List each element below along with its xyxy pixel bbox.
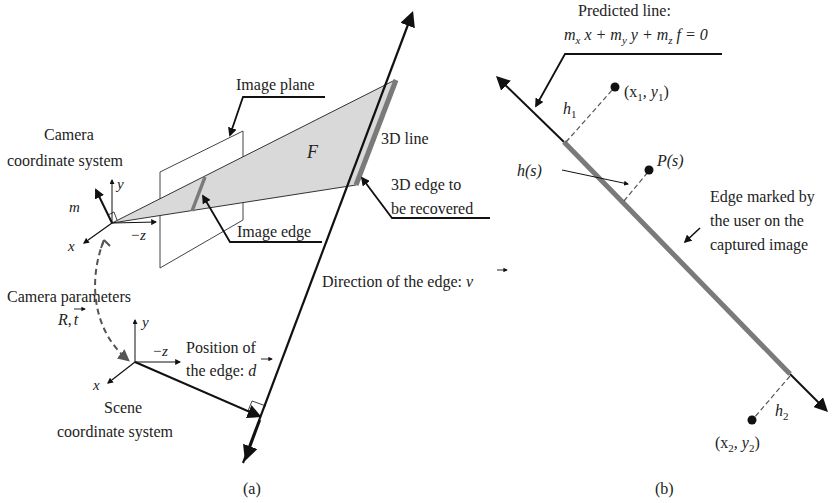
plane-F [112,80,395,223]
caption-b: (b) [655,480,674,498]
caption-a: (a) [243,480,261,498]
label-image-plane: Image plane [236,76,315,94]
label-x-cam: x [67,238,75,254]
line-3d-lower-arrow [246,420,260,458]
label-scene-cs: coordinate system [57,423,174,441]
point-x1y1 [611,83,620,92]
panel-a: Image plane Camera coordinate system m y… [7,14,507,498]
point-x2y2 [748,416,757,425]
label-F: F [306,142,319,162]
label-m: m [69,199,80,215]
label-h1: h1 [563,100,577,120]
label-scene: Scene [104,399,142,416]
label-equation: mx x + my y + mz f = 0 [564,26,708,46]
label-y-cam: y [115,176,124,192]
label-camera-params: Camera parameters [7,288,131,306]
label-3d-line: 3D line [381,130,429,147]
diagram-stage: Image plane Camera coordinate system m y… [0,0,835,503]
marked-edge [564,142,790,374]
label-edge-marked-1: Edge marked by [710,188,815,206]
label-hs: h(s) [517,162,542,180]
label-x2y2: (x2, y2) [715,434,760,454]
label-h2: h2 [775,402,789,422]
label-position-2: the edge: d [186,362,257,380]
label-camera-cs: coordinate system [7,152,124,170]
label-x-scene: x [92,377,100,393]
label-image-edge: Image edge [237,223,311,241]
panel-b: Predicted line: mx x + my y + mz f = 0 h… [498,2,826,498]
diagram-svg: Image plane Camera coordinate system m y… [0,0,835,503]
label-position-1: Position of [186,339,256,356]
label-y-scene: y [140,314,149,330]
label-3d-edge-2: be recovered [391,200,473,217]
predicted-line [498,78,564,142]
label-R: R,t [57,311,79,328]
label-negz-scene: −z [152,343,168,359]
label-negz-cam: −z [130,227,146,243]
label-edge-marked-3: captured image [710,236,808,254]
point-Ps [645,166,654,175]
label-camera: Camera [44,126,94,143]
predicted-line-lower [790,374,826,410]
label-direction: Direction of the edge: v [322,273,474,291]
label-edge-marked-2: the user on the [710,212,804,229]
hs-dashed [624,172,648,201]
label-x1y1: (x1, y1) [624,83,669,103]
label-predicted-line: Predicted line: [578,2,671,19]
label-Ps: P(s) [656,152,684,170]
edge-marked-pointer [685,228,700,242]
label-3d-edge-1: 3D edge to [391,176,461,194]
